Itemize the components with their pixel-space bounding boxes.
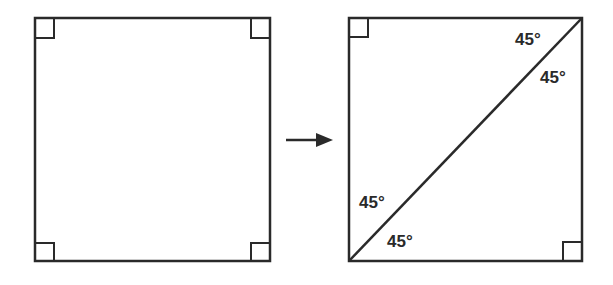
right-angle-marker-bl — [35, 243, 54, 261]
angle-label-bottom-left-upper: 45° — [359, 193, 385, 212]
left-square — [35, 18, 270, 261]
arrow-icon — [286, 133, 333, 147]
diagram: 45° 45° 45° 45° — [0, 0, 613, 285]
angle-label-bottom-left-lower: 45° — [387, 232, 413, 251]
angle-label-top-right-lower: 45° — [540, 68, 566, 87]
right-angle-marker-tl — [35, 18, 54, 38]
angle-label-top-right-upper: 45° — [515, 30, 541, 49]
right-angle-marker-br — [251, 243, 270, 261]
right-angle-marker-br — [563, 242, 582, 261]
right-angle-marker-tl — [349, 18, 368, 37]
right-angle-marker-tr — [251, 18, 270, 38]
right-square — [349, 18, 582, 261]
diagonal — [349, 18, 582, 261]
